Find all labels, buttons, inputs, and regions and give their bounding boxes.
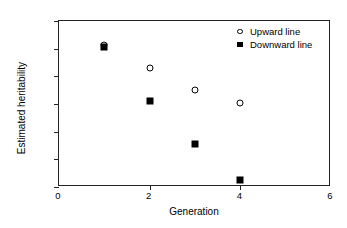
plot-area: Upward lineDownward line bbox=[58, 20, 330, 186]
legend-label: Upward line bbox=[250, 27, 300, 37]
data-point-filled-square bbox=[237, 177, 244, 184]
legend-item: Downward line bbox=[234, 38, 312, 51]
y-axis-tick bbox=[54, 21, 59, 22]
legend-marker-icon bbox=[234, 42, 246, 48]
y-axis-tick bbox=[54, 187, 59, 188]
y-axis-tick bbox=[54, 132, 59, 133]
data-point-open-circle bbox=[146, 65, 153, 72]
legend-item: Upward line bbox=[234, 25, 312, 38]
y-axis-tick bbox=[54, 49, 59, 50]
x-axis-tick-label: 4 bbox=[229, 191, 249, 201]
data-point-filled-square bbox=[192, 141, 199, 148]
y-axis-tick bbox=[54, 104, 59, 105]
filled-square-icon bbox=[237, 42, 243, 48]
data-point-open-circle bbox=[192, 87, 199, 94]
y-axis-title: Estimated heritability bbox=[17, 25, 27, 191]
x-axis-tick-label: 6 bbox=[320, 191, 340, 201]
x-axis-title: Generation bbox=[58, 207, 330, 217]
chart-legend: Upward lineDownward line bbox=[234, 25, 312, 51]
x-axis-tick-label: 0 bbox=[48, 191, 68, 201]
x-axis-tick-label: 2 bbox=[139, 191, 159, 201]
chart-figure: 00.10.20.30.40.50.6 Estimated heritabili… bbox=[0, 0, 347, 228]
data-point-open-circle bbox=[237, 99, 244, 106]
y-axis-tick bbox=[54, 159, 59, 160]
open-circle-icon bbox=[237, 29, 243, 35]
data-point-filled-square bbox=[146, 98, 153, 105]
data-point-filled-square bbox=[101, 44, 108, 51]
legend-marker-icon bbox=[234, 29, 246, 35]
legend-label: Downward line bbox=[250, 40, 312, 50]
y-axis-tick bbox=[54, 76, 59, 77]
